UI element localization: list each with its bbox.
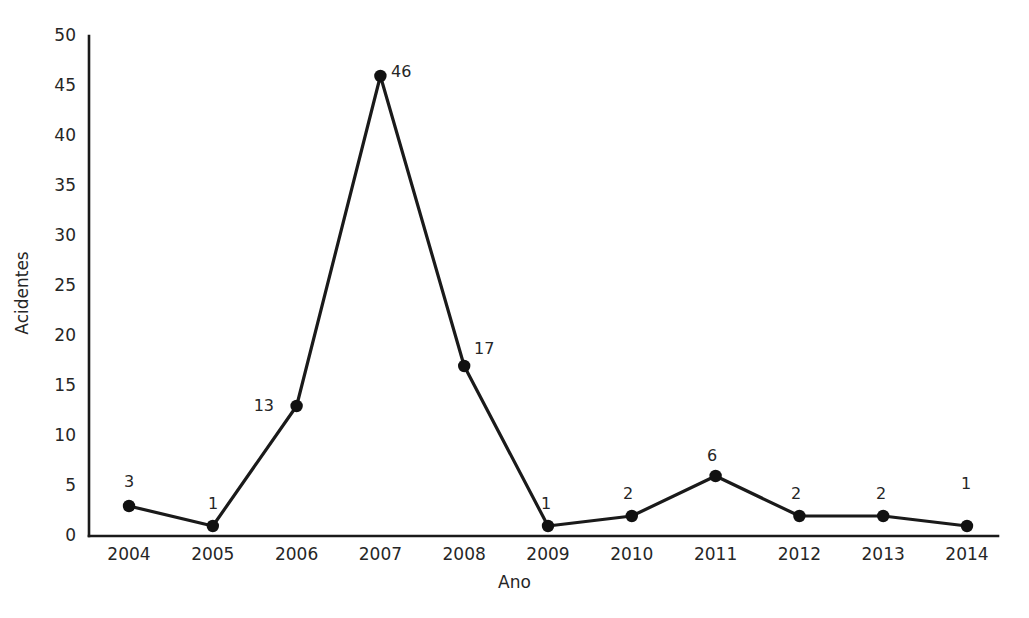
data-point-value-label: 2 [766,486,826,502]
scan-bleed-artifact [0,596,1029,618]
y-axis-tick-label: 5 [32,477,76,494]
data-point-value-label: 1 [516,496,576,512]
x-axis-tick-label: 2007 [345,546,415,563]
data-point-value-label: 2 [598,486,658,502]
x-axis-tick-label: 2008 [429,546,499,563]
data-point-marker [290,400,302,412]
data-point-marker [793,510,805,522]
x-axis-tick-label: 2004 [94,546,164,563]
chart-plot-area [0,0,1029,618]
data-point-marker [374,70,386,82]
data-point-value-label: 17 [474,341,494,357]
data-point-value-label: 3 [99,474,159,490]
x-axis-tick-label: 2006 [262,546,332,563]
x-axis-tick-label: 2013 [848,546,918,563]
data-point-marker [458,360,470,372]
y-axis-tick-label: 20 [32,327,76,344]
y-axis-tick-label: 50 [32,27,76,44]
data-point-marker [542,520,554,532]
data-point-marker [877,510,889,522]
line-chart-figure: 50454035302520151050 2004200520062007200… [0,0,1029,618]
data-point-value-label: 13 [214,398,274,414]
y-axis-tick-label: 40 [32,127,76,144]
data-series-line [129,76,967,526]
y-axis-tick-label: 0 [32,527,76,544]
x-axis-tick-label: 2010 [597,546,667,563]
y-axis-tick-label: 30 [32,227,76,244]
y-axis-tick-label: 15 [32,377,76,394]
data-point-marker [207,520,219,532]
data-point-value-label: 1 [936,476,996,492]
data-point-value-label: 6 [682,448,742,464]
data-point-marker [626,510,638,522]
data-point-value-label: 1 [183,496,243,512]
y-axis-tick-label: 35 [32,177,76,194]
x-axis-tick-label: 2005 [178,546,248,563]
y-axis-tick-label: 45 [32,77,76,94]
data-point-value-label: 46 [391,64,411,80]
data-point-marker [709,470,721,482]
x-axis-title: Ano [0,572,1029,592]
data-point-marker [123,500,135,512]
y-axis-title: Acidentes [12,238,32,348]
x-axis-tick-label: 2011 [681,546,751,563]
data-point-marker [961,520,973,532]
x-axis-tick-label: 2012 [764,546,834,563]
data-point-markers [123,70,973,532]
x-axis-tick-label: 2009 [513,546,583,563]
x-axis-tick-label: 2014 [932,546,1002,563]
data-point-value-label: 2 [851,486,911,502]
y-axis-tick-label: 10 [32,427,76,444]
y-axis-tick-label: 25 [32,277,76,294]
